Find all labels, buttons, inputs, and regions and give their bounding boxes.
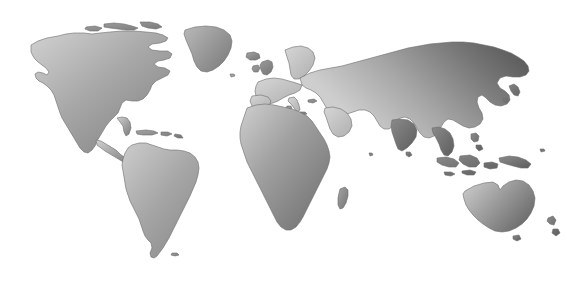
world-map-graphic xyxy=(0,0,567,287)
world-map-figure: World map xyxy=(0,0,567,287)
map-container xyxy=(0,0,567,287)
landmass-falklands xyxy=(171,253,179,256)
